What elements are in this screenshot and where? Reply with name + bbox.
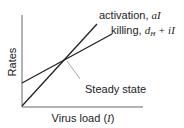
killing-label: killing, dH + iI — [111, 24, 176, 38]
steady-state-leader-line — [67, 61, 80, 79]
activation-formula: aI — [152, 9, 163, 21]
killing-formula-rest: + iI — [155, 24, 176, 36]
x-axis-label: Virus load (I) — [52, 112, 115, 124]
activation-label: activation, aI — [99, 9, 162, 21]
killing-line — [22, 34, 112, 83]
y-axis-label: Rates — [6, 47, 18, 76]
steady-state-label: Steady state — [85, 83, 146, 95]
steady-state-diagram: Rates Virus load (I) Steady state activa… — [0, 0, 184, 128]
